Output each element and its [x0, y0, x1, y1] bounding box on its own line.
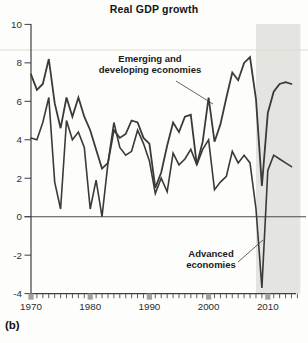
x-tick-label: 1990: [139, 301, 161, 312]
y-tick-label: 10: [11, 19, 22, 30]
gdp-growth-line-chart: 1086420-2-419701980199020002010: [0, 0, 308, 343]
decade-tick: [206, 294, 211, 300]
decade-tick: [265, 294, 270, 300]
x-tick-label: 1970: [20, 301, 42, 312]
x-tick-label: 2010: [257, 301, 279, 312]
advanced-economies-line: [31, 98, 292, 288]
decade-tick: [28, 294, 33, 300]
decade-tick: [147, 294, 152, 300]
figure-panel: Real GDP growth 1086420-2-41970198019902…: [0, 0, 308, 343]
y-tick-label: 0: [17, 211, 23, 222]
x-tick-label: 1980: [79, 301, 101, 312]
emerging-label-pointer-line: [176, 81, 213, 104]
y-tick-label: -4: [13, 288, 22, 299]
y-tick-label: 8: [17, 57, 23, 68]
y-tick-label: 2: [17, 173, 22, 184]
panel-letter-label: (b): [5, 319, 20, 331]
y-tick-label: 6: [17, 96, 23, 107]
decade-tick: [88, 294, 93, 300]
y-tick-label: 4: [17, 134, 23, 145]
emerging-economies-line: [31, 57, 292, 188]
x-tick-label: 2000: [198, 301, 220, 312]
y-tick-label: -2: [13, 250, 22, 261]
